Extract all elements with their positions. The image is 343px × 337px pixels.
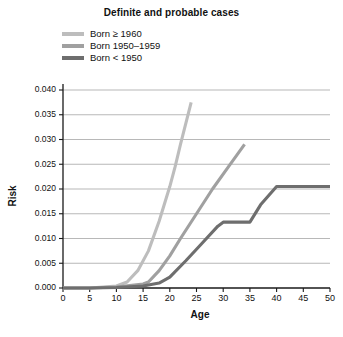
x-tick-label: 35 — [245, 293, 255, 303]
x-tick-label: 25 — [191, 293, 201, 303]
y-tick-label: 0.015 — [35, 208, 57, 218]
x-tick-label: 45 — [298, 293, 308, 303]
y-tick-label: 0.035 — [35, 109, 57, 119]
x-tick-label: 5 — [87, 293, 92, 303]
series-line — [63, 102, 191, 288]
x-tick-label: 20 — [165, 293, 175, 303]
plot-area: 0.0000.0050.0100.0150.0200.0250.0300.035… — [0, 0, 343, 337]
x-tick-label: 50 — [325, 293, 335, 303]
y-tick-label: 0.005 — [35, 258, 57, 268]
y-tick-label: 0.000 — [35, 282, 57, 292]
x-tick-label: 0 — [60, 293, 65, 303]
x-tick-label: 40 — [272, 293, 282, 303]
series-line — [63, 144, 245, 288]
series-line — [63, 187, 330, 288]
data-series-group — [63, 102, 330, 288]
y-tick-label: 0.020 — [35, 183, 57, 193]
x-axis-ticks: 05101520253035404550 — [60, 288, 335, 303]
y-tick-label: 0.025 — [35, 159, 57, 169]
x-tick-label: 15 — [138, 293, 148, 303]
y-tick-label: 0.040 — [35, 84, 57, 94]
y-tick-label: 0.030 — [35, 134, 57, 144]
y-axis-ticks: 0.0000.0050.0100.0150.0200.0250.0300.035… — [35, 84, 63, 292]
x-axis-title: Age — [191, 309, 210, 320]
y-tick-label: 0.010 — [35, 233, 57, 243]
x-tick-label: 30 — [218, 293, 228, 303]
chart-figure: Definite and probable cases Born ≥ 1960 … — [0, 0, 343, 337]
x-tick-label: 10 — [111, 293, 121, 303]
y-axis-title: Risk — [7, 185, 18, 207]
